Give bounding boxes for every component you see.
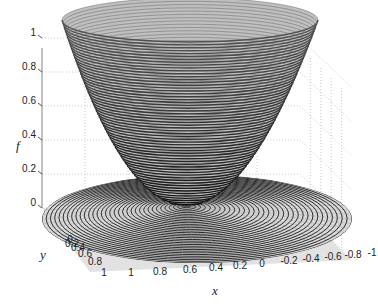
x-tick-label: 1 (128, 267, 134, 278)
x-tick-label: -0.4 (302, 253, 320, 264)
y-axis-label: y (38, 247, 46, 262)
x-tick-label: -1 (368, 247, 377, 258)
x-tick-label: -0.6 (324, 251, 342, 262)
plot-area: 00.20.40.60.81 10.80.60.40.20-0.2-0.4-0.… (0, 0, 378, 307)
z-tick-label: 0 (30, 197, 36, 208)
x-tick-label: 0.2 (233, 260, 247, 271)
x-tick-label: 0.8 (153, 266, 167, 277)
z-tick-label: 0.8 (22, 61, 36, 72)
z-tick-label: 0.6 (22, 95, 36, 106)
x-tick-label: 0.4 (209, 262, 223, 273)
x-tick-label: 0 (259, 258, 265, 269)
paraboloid-surface-chart: 00.20.40.60.81 10.80.60.40.20-0.2-0.4-0.… (0, 0, 378, 307)
z-tick-label: 1 (30, 27, 36, 38)
z-tick-label: 0.2 (22, 163, 36, 174)
x-axis-label: x (211, 283, 218, 298)
z-tick-label: 0.4 (22, 129, 36, 140)
z-axis-label: f (16, 138, 22, 153)
x-tick-label: 0.6 (183, 264, 197, 275)
x-tick-label: -0.8 (344, 249, 362, 260)
x-tick-label: -0.2 (280, 255, 298, 266)
z-axis-ticks: 00.20.40.60.81 (22, 27, 42, 208)
y-tick-label: 0.8 (88, 256, 102, 267)
y-tick-label: 1 (101, 267, 107, 278)
